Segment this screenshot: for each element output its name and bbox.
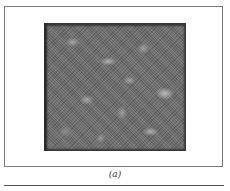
figure-caption: (a) <box>0 169 230 179</box>
bottom-rule-divider <box>4 185 224 186</box>
figure-image-texture <box>44 23 186 151</box>
